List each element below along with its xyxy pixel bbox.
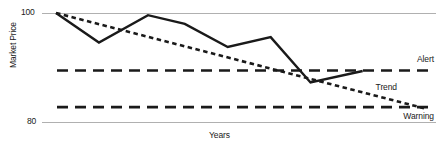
y-axis-label: Market Price (6, 10, 20, 80)
trend-line (56, 13, 424, 108)
market-price-chart: Market Price 100 80 Years Alert Trend Wa… (0, 0, 439, 150)
x-axis-label: Years (0, 131, 439, 140)
chart-plot-area (0, 0, 439, 150)
alert-line-label: Alert (417, 55, 434, 64)
y-tick-label-80: 80 (27, 117, 36, 126)
trend-line-label: Trend (376, 83, 397, 92)
y-axis-label-wrap: Market Price (0, 38, 48, 52)
market-price-series-line (56, 13, 363, 83)
y-tick-label-100: 100 (21, 8, 35, 17)
warning-line-label: Warning (403, 112, 434, 121)
